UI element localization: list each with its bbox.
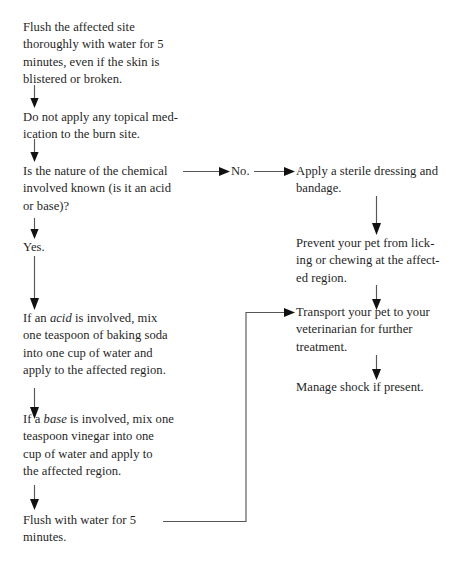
flowchart-canvas: Flush the affected site thoroughly with … [0, 0, 476, 569]
edge-nature-to-yes [30, 218, 38, 239]
node-flush-site: Flush the affected site thoroughly with … [23, 19, 223, 89]
base-keyword: base [44, 412, 67, 426]
node-yes: Yes. [23, 239, 123, 256]
edge-no-to-dressing [254, 167, 295, 176]
edge-yes-to-acid [30, 256, 39, 310]
node-transport-to-vet: Transport your pet to your veterinarian … [296, 304, 474, 356]
edge-base-to-flushfive [30, 485, 39, 510]
edge-dressing-to-prevent [372, 196, 381, 235]
node-acid-treatment: If an acid is involved, mix one teaspoon… [23, 310, 228, 380]
node-base-treatment: If a base is involved, mix one teaspoon … [23, 411, 235, 481]
branch-label-no: No. [231, 163, 250, 180]
acid-text-before: If an [23, 311, 50, 325]
node-sterile-dressing: Apply a sterile dressing and bandage. [296, 163, 474, 198]
node-nature-known: Is the nature of the chemical involved k… [23, 163, 223, 215]
acid-keyword: acid [50, 311, 72, 325]
edge-transport-to-shock [372, 355, 381, 380]
node-prevent-licking: Prevent your pet from lick- ing or chewi… [296, 235, 474, 287]
node-flush-five-minutes: Flush with water for 5 minutes. [23, 512, 223, 547]
node-manage-shock: Manage shock if present. [296, 379, 474, 396]
base-text-before: If a [23, 412, 44, 426]
node-no-topical: Do not apply any topical med- ication to… [23, 109, 233, 144]
